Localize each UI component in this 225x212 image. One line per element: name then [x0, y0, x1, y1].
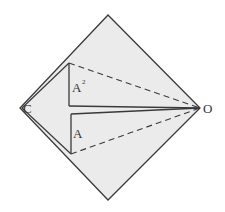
- label-c: C: [23, 101, 32, 116]
- label-upper-triangle: A: [72, 80, 82, 95]
- label-upper-triangle-superscript: 2: [82, 78, 86, 86]
- label-o: O: [203, 101, 212, 116]
- diagram-canvas: C O A 2 A: [0, 0, 225, 212]
- diagram-svg: C O A 2 A: [0, 0, 225, 212]
- label-lower-triangle: A: [73, 126, 83, 141]
